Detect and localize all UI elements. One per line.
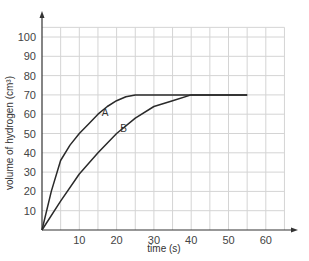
y-tick-label: 30: [24, 166, 36, 178]
gridlines: [42, 27, 284, 230]
y-tick-label: 60: [24, 108, 36, 120]
curve-label-b: B: [120, 123, 127, 134]
y-axis-arrow-icon: [40, 11, 45, 18]
curve-a: [42, 95, 247, 230]
chart: 102030405060102030405060708090100 AB tim…: [0, 0, 309, 261]
y-tick-label: 100: [18, 31, 36, 43]
x-tick-label: 20: [110, 234, 122, 246]
curve-b: [42, 95, 247, 230]
x-tick-label: 40: [185, 234, 197, 246]
y-tick-label: 20: [24, 185, 36, 197]
y-tick-label: 40: [24, 147, 36, 159]
x-tick-label: 10: [73, 234, 85, 246]
y-tick-label: 10: [24, 205, 36, 217]
x-axis-label: time (s): [147, 243, 180, 254]
y-axis-label: volume of hydrogen (cm³): [4, 76, 15, 190]
curve-labels: AB: [102, 107, 128, 133]
y-tick-label: 70: [24, 89, 36, 101]
x-tick-label: 60: [260, 234, 272, 246]
x-axis-arrow-icon: [291, 228, 298, 233]
curve-label-a: A: [102, 107, 109, 118]
y-tick-label: 50: [24, 128, 36, 140]
x-tick-label: 50: [222, 234, 234, 246]
y-tick-label: 80: [24, 70, 36, 82]
tick-labels: 102030405060102030405060708090100: [18, 31, 272, 246]
y-tick-label: 90: [24, 50, 36, 62]
data-curves: [42, 95, 247, 230]
axes: [40, 11, 299, 233]
